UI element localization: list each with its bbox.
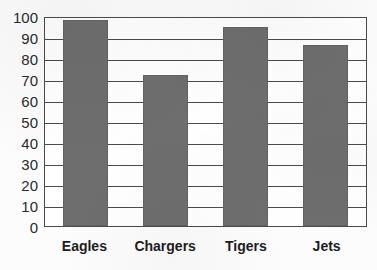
y-axis-tick-40: 40: [2, 136, 38, 151]
y-axis-tick-10: 10: [2, 199, 38, 214]
bar-slot-eagles: [45, 18, 125, 226]
bar-jets[interactable]: [303, 45, 348, 226]
bar-slot-tigers: [206, 18, 286, 226]
y-axis-tick-20: 20: [2, 178, 38, 193]
bar-eagles[interactable]: [63, 20, 108, 226]
bar-slot-jets: [286, 18, 366, 226]
bar-chart-figure: 1009080706050403020100 EaglesChargersTig…: [0, 0, 377, 270]
x-axis-category-labels: EaglesChargersTigersJets: [44, 238, 367, 254]
y-axis-tick-0: 0: [2, 220, 38, 235]
plot-area: [44, 17, 367, 227]
y-axis-tick-70: 70: [2, 73, 38, 88]
x-axis-label-tigers: Tigers: [206, 238, 287, 254]
x-axis-label-eagles: Eagles: [44, 238, 125, 254]
y-axis-tick-60: 60: [2, 94, 38, 109]
bar-slot-chargers: [125, 18, 205, 226]
x-axis-label-jets: Jets: [286, 238, 367, 254]
bar-chargers[interactable]: [143, 75, 188, 226]
y-axis-tick-90: 90: [2, 31, 38, 46]
y-axis-tick-labels: 1009080706050403020100: [2, 0, 38, 270]
x-axis-label-chargers: Chargers: [125, 238, 206, 254]
bar-tigers[interactable]: [223, 27, 268, 227]
bars-layer: [45, 18, 366, 226]
y-axis-tick-50: 50: [2, 115, 38, 130]
y-axis-tick-30: 30: [2, 157, 38, 172]
y-axis-tick-100: 100: [2, 10, 38, 25]
y-axis-tick-80: 80: [2, 52, 38, 67]
